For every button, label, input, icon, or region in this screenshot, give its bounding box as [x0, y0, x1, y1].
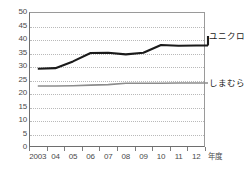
x-axis-tick [117, 147, 118, 151]
x-axis-tick-label: 06 [86, 152, 95, 161]
chart-container: 50454035302520151050 2003040506070809101… [0, 0, 246, 171]
x-axis-tick-label: 09 [139, 152, 148, 161]
series-line-uniqlo [38, 45, 208, 69]
x-axis-tick-label: 08 [122, 152, 131, 161]
x-axis-tick [29, 147, 30, 151]
x-axis-tick-label: 07 [104, 152, 113, 161]
x-axis-ticks [29, 147, 205, 151]
x-axis-tick [47, 147, 48, 151]
x-axis-tick [205, 147, 206, 151]
x-axis-tick-label: 12 [192, 152, 201, 161]
x-axis-tick-label: 11 [175, 152, 183, 161]
x-axis-tick-label: 05 [69, 152, 78, 161]
x-axis-tick [99, 147, 100, 151]
series-line-shimamura [38, 83, 208, 86]
x-axis-tick-label: 04 [51, 152, 60, 161]
x-axis-tick [152, 147, 153, 151]
x-axis-tick [64, 147, 65, 151]
x-axis-unit-label: 年度 [208, 152, 222, 161]
legend-label-shimamura: しまむら [209, 78, 245, 88]
x-axis-tick [135, 147, 136, 151]
x-axis-tick-label: 10 [157, 152, 166, 161]
x-axis-tick [170, 147, 171, 151]
legend-label-uniqlo: ユニクロ [209, 31, 245, 41]
x-axis-tick [187, 147, 188, 151]
x-axis-tick-label: 2003 [29, 152, 46, 161]
x-axis-tick [82, 147, 83, 151]
